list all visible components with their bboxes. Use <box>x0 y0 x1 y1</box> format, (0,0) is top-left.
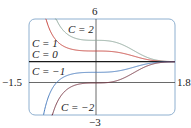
curve-label-cm1: C = −1 <box>32 66 65 77</box>
curve-label-text: C = −1 <box>32 65 65 77</box>
x-max-tick-label: 1.8 <box>177 77 191 88</box>
y-min-tick-label: −3 <box>89 117 101 128</box>
curve-label-cm2: C = −2 <box>61 102 94 113</box>
curve-label-text: C = −2 <box>61 101 94 113</box>
curve-label-text: C = 2 <box>68 23 94 35</box>
curve-label-c2: C = 2 <box>68 24 94 35</box>
chart-plot <box>0 0 191 128</box>
x-min-tick-label: −1.5 <box>2 77 22 88</box>
curve-label-c0: C = 0 <box>32 49 58 60</box>
curve-c1 <box>45 19 175 62</box>
y-max-tick-label: 6 <box>92 6 98 17</box>
curve-label-text: C = 0 <box>32 48 58 60</box>
